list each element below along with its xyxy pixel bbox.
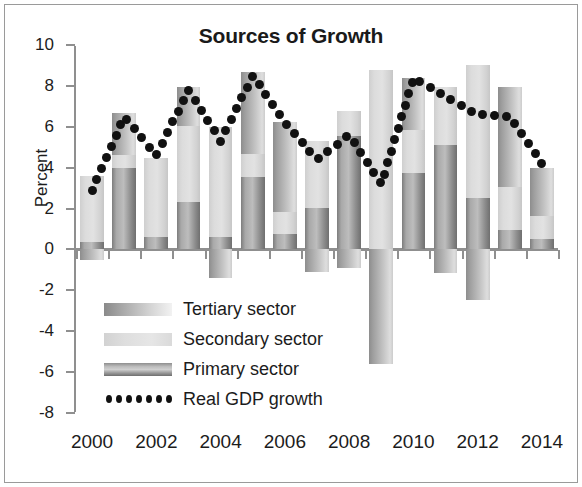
gdp-data-point [282, 120, 291, 129]
gdp-data-point [122, 115, 131, 124]
gdp-data-point [261, 90, 270, 99]
gdp-data-point [415, 77, 424, 86]
gdp-data-point [197, 106, 206, 115]
chart-legend: Tertiary sector Secondary sector Primary… [104, 294, 384, 414]
bar-group[interactable] [466, 45, 490, 413]
gdp-data-point [314, 154, 323, 163]
x-axis-tick-label: 2004 [186, 431, 256, 453]
gdp-data-point [248, 72, 257, 81]
gdp-data-point [179, 96, 188, 105]
x-axis-tick-label: 2012 [443, 431, 513, 453]
gdp-data-point [467, 107, 476, 116]
bar-segment-secondary-sector[interactable] [273, 212, 297, 234]
bar-segment-secondary-sector[interactable] [530, 216, 554, 240]
gdp-data-point [232, 104, 241, 113]
x-axis-tick-label: 2002 [121, 431, 191, 453]
y-axis-tick [66, 330, 75, 332]
gdp-data-point [97, 164, 106, 173]
bar-segment-primary-sector[interactable] [498, 230, 522, 249]
bar-segment-primary-sector[interactable] [305, 208, 329, 250]
bar-segment-secondary-sector[interactable] [177, 126, 201, 203]
bar-segment-primary-sector[interactable] [530, 239, 554, 249]
gdp-data-point [380, 170, 389, 179]
x-axis-tick [558, 250, 560, 259]
gdp-data-point [92, 175, 101, 184]
y-axis-tick-label: 4 [16, 158, 54, 178]
gdp-data-point [255, 80, 264, 89]
gdp-data-point [107, 142, 116, 151]
secondary-swatch-icon [104, 333, 172, 346]
bar-segment-tertiary-sector[interactable] [530, 168, 554, 216]
y-axis-tick-label: 0 [16, 239, 54, 259]
gdp-data-point [401, 101, 410, 110]
gdp-data-point [376, 178, 385, 187]
legend-item-real-gdp-growth[interactable]: Real GDP growth [104, 384, 384, 414]
gdp-data-point [531, 149, 540, 158]
primary-swatch-icon [104, 363, 172, 376]
bar-segment-tertiary-sector[interactable] [305, 249, 329, 271]
gdp-data-point [112, 131, 121, 140]
legend-label: Secondary sector [183, 329, 323, 350]
gdp-data-point [323, 147, 332, 156]
y-axis-tick-label: -8 [16, 403, 54, 423]
bar-segment-primary-sector[interactable] [466, 198, 490, 249]
legend-item-primary[interactable]: Primary sector [104, 354, 384, 384]
bar-segment-primary-sector[interactable] [80, 242, 104, 249]
x-axis-tick-label: 2014 [507, 431, 577, 453]
bar-segment-tertiary-sector[interactable] [209, 249, 233, 278]
bar-group[interactable] [498, 45, 522, 413]
y-axis-tick [66, 85, 75, 87]
bar-group[interactable] [80, 45, 104, 413]
dotted-line-icon [104, 393, 172, 406]
bar-segment-primary-sector[interactable] [273, 234, 297, 249]
bar-segment-secondary-sector[interactable] [466, 65, 490, 198]
bar-segment-primary-sector[interactable] [402, 173, 426, 250]
gdp-data-point [102, 153, 111, 162]
gdp-data-point [390, 135, 399, 144]
bar-segment-tertiary-sector[interactable] [434, 249, 458, 273]
y-axis-tick [66, 289, 75, 291]
bar-segment-primary-sector[interactable] [144, 237, 168, 249]
gdp-data-point [275, 110, 284, 119]
legend-item-tertiary[interactable]: Tertiary sector [104, 294, 384, 324]
bar-segment-primary-sector[interactable] [241, 177, 265, 250]
gdp-data-point [350, 138, 359, 147]
y-axis-tick-label: 2 [16, 199, 54, 219]
gdp-data-point [88, 186, 97, 195]
bar-segment-primary-sector[interactable] [177, 202, 201, 249]
tertiary-swatch-icon [104, 303, 172, 316]
gdp-data-point [163, 128, 172, 137]
bar-segment-primary-sector[interactable] [209, 237, 233, 249]
gdp-data-point [426, 83, 435, 92]
gdp-data-point [387, 147, 396, 156]
bar-group[interactable] [530, 45, 554, 413]
y-axis-tick-label: 8 [16, 76, 54, 96]
gdp-data-point [517, 129, 526, 138]
gdp-data-point [333, 140, 342, 149]
bar-segment-tertiary-sector[interactable] [337, 249, 361, 267]
bar-segment-tertiary-sector[interactable] [466, 249, 490, 299]
gdp-data-point [290, 129, 299, 138]
gdp-data-point [363, 158, 372, 167]
legend-item-secondary[interactable]: Secondary sector [104, 324, 384, 354]
bar-segment-secondary-sector[interactable] [144, 158, 168, 237]
gdp-data-point [298, 138, 307, 147]
legend-label: Primary sector [183, 359, 299, 380]
gdp-data-point [184, 86, 193, 95]
chart-figure: Sources of Growth Percent 1086420-2-4-6-… [0, 0, 582, 487]
y-axis-tick-label: -2 [16, 280, 54, 300]
x-axis-tick-label: 2010 [378, 431, 448, 453]
bar-segment-secondary-sector[interactable] [402, 130, 426, 173]
bar-segment-tertiary-sector[interactable] [80, 249, 104, 259]
y-axis-tick-label: -4 [16, 321, 54, 341]
y-axis-tick-label: 6 [16, 117, 54, 137]
bar-segment-secondary-sector[interactable] [241, 154, 265, 176]
gdp-data-point [243, 83, 252, 92]
bar-segment-secondary-sector[interactable] [112, 155, 136, 167]
y-axis-tick [66, 167, 75, 169]
bar-segment-primary-sector[interactable] [112, 168, 136, 250]
bar-segment-primary-sector[interactable] [434, 145, 458, 249]
gdp-data-point [394, 124, 403, 133]
gdp-data-point [216, 137, 225, 146]
bar-segment-secondary-sector[interactable] [498, 187, 522, 230]
